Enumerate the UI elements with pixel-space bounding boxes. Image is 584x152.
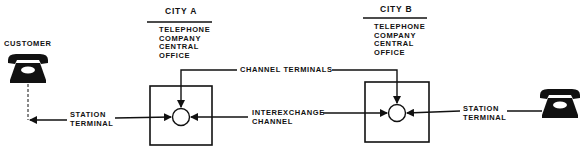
- channel-terminals-line-left: [181, 70, 237, 107]
- station-terminal-left-label: STATION TERMINAL: [70, 111, 114, 128]
- city-a-office-label: TELEPHONE COMPANY CENTRAL OFFICE: [159, 26, 210, 60]
- telephone-icon: [540, 89, 580, 118]
- city-b-channel-terminal: [389, 105, 406, 122]
- station-line-left-to-office: [115, 117, 171, 118]
- label-line: CHANNEL: [252, 118, 325, 127]
- interexchange-channel-label: INTEREXCHANGE CHANNEL: [252, 109, 325, 126]
- customer-label: CUSTOMER: [4, 40, 52, 49]
- station-line-right-to-office: [407, 111, 460, 113]
- label-line: TERMINAL: [70, 120, 114, 129]
- city-a-title: CITY A: [165, 7, 197, 16]
- city-a-channel-terminal: [173, 109, 190, 126]
- office-line: OFFICE: [374, 49, 425, 58]
- city-b-title: CITY B: [380, 5, 413, 14]
- office-line: OFFICE: [159, 52, 210, 61]
- city-b-office-label: TELEPHONE COMPANY CENTRAL OFFICE: [374, 23, 425, 57]
- station-terminal-right-label: STATION TERMINAL: [463, 105, 507, 122]
- channel-terminals-label: CHANNEL TERMINALS: [240, 66, 333, 75]
- diagram-canvas: [0, 0, 584, 152]
- telephone-icon: [8, 54, 48, 83]
- label-line: TERMINAL: [463, 114, 507, 123]
